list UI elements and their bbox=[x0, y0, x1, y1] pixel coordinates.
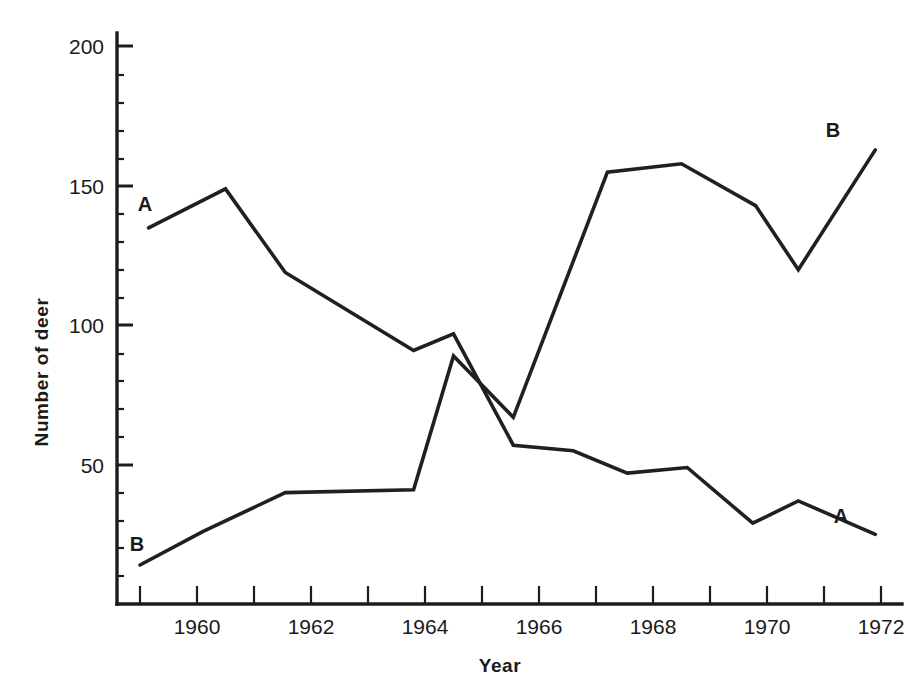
x-tick-label-1968: 1968 bbox=[630, 615, 677, 638]
y-axis-major-ticks bbox=[117, 46, 133, 465]
x-tick-label-1960: 1960 bbox=[174, 615, 221, 638]
y-tick-label-150: 150 bbox=[69, 175, 104, 198]
series-label-a-start: A bbox=[138, 193, 152, 215]
series-label-a-end: A bbox=[834, 505, 848, 527]
series-label-b-end: B bbox=[826, 119, 840, 141]
x-axis-tick-labels: 1960 1962 1964 1966 1968 1970 1972 bbox=[174, 615, 905, 638]
x-tick-label-1962: 1962 bbox=[288, 615, 335, 638]
deer-population-line-chart: 50 100 150 200 1960 1962 1964 bbox=[0, 0, 922, 698]
series-group bbox=[140, 150, 875, 565]
chart-container: 50 100 150 200 1960 1962 1964 bbox=[0, 0, 922, 698]
y-tick-label-50: 50 bbox=[81, 454, 104, 477]
x-tick-label-1964: 1964 bbox=[402, 615, 449, 638]
y-tick-label-100: 100 bbox=[69, 314, 104, 337]
x-tick-label-1966: 1966 bbox=[516, 615, 563, 638]
x-tick-label-1972: 1972 bbox=[858, 615, 905, 638]
x-axis-title: Year bbox=[479, 655, 522, 676]
series-label-b-start: B bbox=[130, 533, 144, 555]
y-tick-label-200: 200 bbox=[69, 35, 104, 58]
x-axis-ticks bbox=[140, 586, 881, 604]
series-line-b bbox=[140, 150, 875, 565]
series-line-a bbox=[149, 189, 876, 535]
y-axis-title: Number of deer bbox=[31, 298, 52, 447]
x-tick-label-1970: 1970 bbox=[744, 615, 791, 638]
series-annotations: A B A B bbox=[130, 119, 848, 555]
y-axis-tick-labels: 50 100 150 200 bbox=[69, 35, 104, 477]
